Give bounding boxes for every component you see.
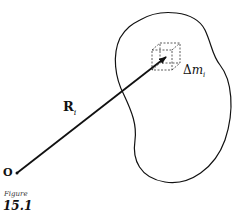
origin-label: O <box>3 166 13 179</box>
rigid-body-diagram <box>0 0 234 213</box>
figure-caption-word: Figure <box>4 190 28 198</box>
origin-point <box>16 172 19 175</box>
position-vector-label: Ri <box>63 99 76 117</box>
figure-number: 15.1 <box>3 199 32 213</box>
position-vector-arrow <box>17 57 166 173</box>
mass-element-cube-icon <box>152 43 180 70</box>
mass-element-label: Δmi <box>183 63 205 79</box>
body-outline <box>115 13 231 183</box>
